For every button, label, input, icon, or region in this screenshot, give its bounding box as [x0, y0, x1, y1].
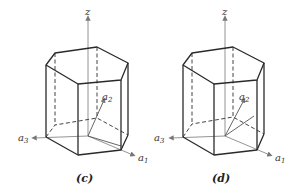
a1-label: a1: [138, 152, 148, 165]
z-label: z: [221, 6, 228, 17]
hexagonal-prism-diagram-c: z a2 a3 a1 (c): [0, 0, 149, 195]
a2-label: a2: [102, 91, 113, 104]
figure-c: z a2 a3 a1 (c): [0, 0, 149, 195]
hidden-bottom-edges: [183, 117, 264, 137]
a3-label: a3: [18, 132, 29, 145]
basis-vector-line: [225, 116, 254, 136]
basis-vector-line: [88, 136, 121, 146]
figure-d: z a2 a3 a1 (d): [148, 0, 297, 195]
a2-axis: [88, 100, 104, 136]
caption-c: (c): [76, 172, 93, 185]
a3-axis: [171, 136, 225, 138]
caption-d: (d): [212, 172, 230, 185]
bottom-edges: [46, 135, 128, 155]
z-label: z: [84, 6, 91, 17]
a3-label: a3: [154, 132, 165, 145]
a1-label: a1: [275, 152, 285, 165]
top-hexagon: [183, 47, 264, 84]
hidden-bottom-edges: [46, 118, 128, 137]
a2-label: a2: [239, 91, 250, 104]
top-hexagon: [46, 47, 128, 84]
a3-axis: [34, 136, 88, 138]
a1-axis: [225, 136, 270, 155]
hexagonal-prism-diagram-d: z a2 a3 a1 (d): [148, 0, 298, 195]
